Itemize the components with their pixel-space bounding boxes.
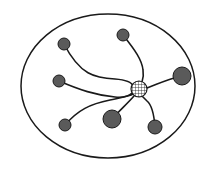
node-bottom-left xyxy=(59,119,71,131)
node-top xyxy=(117,29,129,41)
node-top-left-edge xyxy=(64,44,133,86)
node-bottom-right xyxy=(148,120,162,134)
network-diagram xyxy=(0,0,217,171)
peripheral-nodes xyxy=(53,29,191,134)
boundary-ellipse xyxy=(21,14,195,158)
node-bottom-left-edge xyxy=(65,94,133,125)
node-top-edge xyxy=(123,35,143,82)
node-top-left xyxy=(58,38,70,50)
node-left xyxy=(53,75,65,87)
node-left-edge xyxy=(59,81,132,97)
hub-node xyxy=(131,81,147,97)
node-right xyxy=(173,67,191,85)
node-bottom-center xyxy=(103,110,121,128)
connection-lines xyxy=(59,35,182,127)
